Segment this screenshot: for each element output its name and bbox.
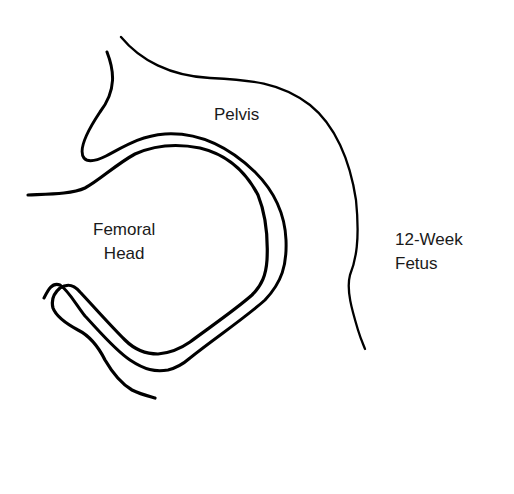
femoral-head-label-line2: Head — [93, 242, 155, 266]
fetus-label-line1: 12-Week — [395, 228, 463, 252]
femoral-head-outline — [28, 145, 267, 398]
acetabulum-outer-line — [44, 52, 286, 371]
label-femoral-head: Femoral Head — [93, 218, 155, 266]
label-fetus-age: 12-Week Fetus — [395, 228, 463, 276]
femoral-head-label-line1: Femoral — [93, 218, 155, 242]
diagram-canvas: Pelvis Femoral Head 12-Week Fetus — [0, 0, 514, 494]
fetus-label-line2: Fetus — [395, 252, 463, 276]
pelvis-label-text: Pelvis — [214, 103, 259, 127]
label-pelvis: Pelvis — [214, 103, 259, 127]
